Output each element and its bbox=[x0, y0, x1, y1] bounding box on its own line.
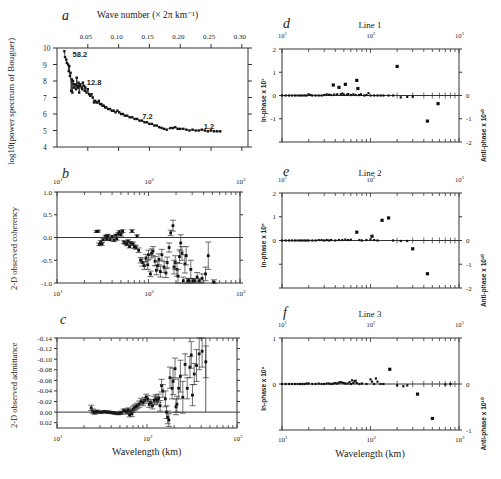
svg-text:0.00: 0.00 bbox=[40, 409, 53, 417]
svg-text:102: 102 bbox=[367, 320, 376, 328]
svg-text:0: 0 bbox=[273, 381, 277, 389]
figure-canvas: aWave number (× 2π km⁻¹)0.050.100.150.20… bbox=[0, 0, 501, 479]
svg-text:-0.12: -0.12 bbox=[37, 345, 52, 353]
svg-text:-1: -1 bbox=[466, 261, 472, 269]
panel-letter-a: a bbox=[62, 8, 69, 23]
svg-text:101: 101 bbox=[278, 175, 287, 183]
y-axis-title: log10(power spectrum of Bouguer) bbox=[6, 38, 16, 165]
svg-text:101: 101 bbox=[53, 434, 63, 443]
svg-text:-1: -1 bbox=[270, 115, 276, 123]
svg-text:Anti-phase x 10¹⁰: Anti-phase x 10¹⁰ bbox=[480, 254, 488, 307]
svg-text:102: 102 bbox=[367, 435, 377, 444]
svg-text:101: 101 bbox=[53, 177, 63, 186]
svg-text:2-D observed coherency: 2-D observed coherency bbox=[9, 206, 19, 290]
svg-text:Wavelength (km): Wavelength (km) bbox=[112, 446, 181, 458]
svg-text:58.2: 58.2 bbox=[73, 50, 88, 59]
svg-text:2-D observed admittance: 2-D observed admittance bbox=[9, 342, 19, 428]
svg-text:0.30: 0.30 bbox=[234, 33, 247, 41]
svg-text:101: 101 bbox=[53, 289, 63, 298]
svg-text:101: 101 bbox=[278, 31, 287, 39]
svg-text:-2: -2 bbox=[466, 139, 472, 147]
svg-text:Line 1: Line 1 bbox=[358, 20, 381, 30]
svg-text:In-phase x 10⁸: In-phase x 10⁸ bbox=[260, 223, 268, 267]
svg-text:12.8: 12.8 bbox=[87, 78, 102, 87]
svg-text:-1: -1 bbox=[466, 427, 472, 435]
svg-text:0.20: 0.20 bbox=[172, 33, 185, 41]
svg-text:9: 9 bbox=[43, 61, 47, 70]
svg-text:2: 2 bbox=[273, 46, 277, 54]
svg-text:0.5: 0.5 bbox=[43, 211, 52, 219]
svg-text:7.2: 7.2 bbox=[142, 112, 152, 121]
svg-text:101: 101 bbox=[278, 320, 287, 328]
svg-text:103: 103 bbox=[455, 31, 465, 39]
svg-text:0: 0 bbox=[466, 92, 470, 100]
svg-text:103: 103 bbox=[236, 289, 246, 298]
svg-text:-2: -2 bbox=[466, 285, 472, 293]
svg-text:4: 4 bbox=[43, 143, 47, 152]
svg-text:In-phase x 10⁸: In-phase x 10⁸ bbox=[260, 366, 268, 410]
svg-text:103: 103 bbox=[455, 320, 465, 328]
svg-text:0: 0 bbox=[466, 381, 470, 389]
svg-text:-0.5: -0.5 bbox=[41, 257, 53, 265]
svg-text:103: 103 bbox=[455, 175, 465, 183]
svg-text:d: d bbox=[283, 16, 291, 31]
svg-text:0: 0 bbox=[273, 237, 277, 245]
svg-text:c: c bbox=[60, 312, 67, 327]
svg-text:102: 102 bbox=[145, 289, 155, 298]
svg-text:0.02: 0.02 bbox=[40, 419, 53, 427]
svg-text:b: b bbox=[62, 166, 69, 181]
svg-text:0.0: 0.0 bbox=[43, 234, 52, 242]
svg-text:6: 6 bbox=[43, 110, 47, 119]
svg-text:-0.14: -0.14 bbox=[37, 335, 52, 343]
svg-text:Anti-phase x 10¹⁰: Anti-phase x 10¹⁰ bbox=[480, 109, 488, 162]
svg-text:Wavelength (km): Wavelength (km) bbox=[335, 448, 404, 460]
svg-text:8: 8 bbox=[43, 77, 47, 86]
svg-text:7: 7 bbox=[43, 94, 47, 103]
svg-text:102: 102 bbox=[367, 31, 376, 39]
svg-text:1.0: 1.0 bbox=[43, 189, 52, 197]
svg-text:-0.10: -0.10 bbox=[37, 356, 52, 364]
svg-text:0: 0 bbox=[466, 237, 470, 245]
svg-text:0.25: 0.25 bbox=[203, 33, 216, 41]
svg-text:103: 103 bbox=[236, 177, 246, 186]
svg-text:0.15: 0.15 bbox=[141, 33, 154, 41]
svg-text:103: 103 bbox=[455, 435, 465, 444]
svg-text:Anti-phase x 10¹⁰: Anti-phase x 10¹⁰ bbox=[480, 397, 488, 450]
x-axis-title: Wave number (× 2π km⁻¹) bbox=[97, 10, 198, 21]
svg-text:1: 1 bbox=[273, 69, 277, 77]
svg-text:2: 2 bbox=[273, 190, 277, 198]
svg-text:0.05: 0.05 bbox=[80, 33, 93, 41]
svg-text:102: 102 bbox=[145, 177, 155, 186]
svg-text:1.2: 1.2 bbox=[204, 122, 214, 131]
svg-text:101: 101 bbox=[278, 435, 288, 444]
panel-b: b101102103101102103-1.0-0.50.00.51.02-D … bbox=[9, 166, 246, 298]
svg-text:-1: -1 bbox=[466, 115, 472, 123]
svg-text:-0.02: -0.02 bbox=[37, 398, 52, 406]
panel-a-power-spectrum: aWave number (× 2π km⁻¹)0.050.100.150.20… bbox=[6, 8, 252, 165]
svg-text:In-phase x 10⁷: In-phase x 10⁷ bbox=[260, 78, 268, 122]
svg-text:-0.06: -0.06 bbox=[37, 377, 52, 385]
panel-e: eLine 2101102103012-2-10In-phase x 10⁸An… bbox=[260, 164, 488, 307]
svg-text:-1.0: -1.0 bbox=[41, 280, 53, 288]
svg-text:-0.08: -0.08 bbox=[37, 366, 52, 374]
svg-text:Line 3: Line 3 bbox=[358, 309, 382, 319]
svg-text:102: 102 bbox=[367, 175, 376, 183]
panel-c: c101102103-0.14-0.12-0.10-0.08-0.06-0.04… bbox=[9, 312, 243, 458]
panel-f: fLine 310110210310110210301-10In-phase x… bbox=[260, 305, 488, 460]
svg-text:1: 1 bbox=[273, 213, 277, 221]
svg-text:10: 10 bbox=[43, 44, 51, 53]
svg-text:f: f bbox=[283, 305, 289, 320]
svg-text:-0.04: -0.04 bbox=[37, 387, 52, 395]
svg-text:0.10: 0.10 bbox=[111, 33, 124, 41]
svg-text:1: 1 bbox=[273, 335, 277, 343]
svg-text:0: 0 bbox=[273, 92, 277, 100]
svg-text:103: 103 bbox=[233, 434, 243, 443]
svg-text:5: 5 bbox=[43, 127, 47, 136]
panel-d: dLine 1101102103-1012-2-10In-phase x 10⁷… bbox=[260, 16, 488, 162]
svg-text:102: 102 bbox=[143, 434, 153, 443]
